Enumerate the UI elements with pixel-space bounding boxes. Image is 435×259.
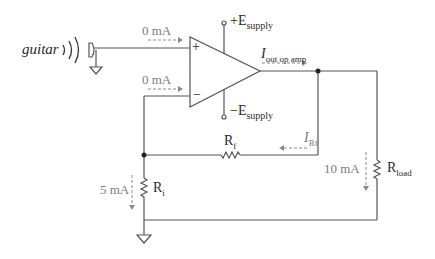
ri-current-label: 5 mA <box>100 183 129 196</box>
minus-sign: − <box>193 88 201 102</box>
negative-supply-label: −Esupply <box>230 104 273 118</box>
noninverting-current-label: 0 mA <box>142 24 171 37</box>
ground-icon <box>137 235 151 243</box>
jack-ground-icon <box>90 67 102 74</box>
sound-wave-icon <box>63 37 79 63</box>
output-junction-dot <box>316 69 321 74</box>
circuit-schematic <box>0 0 435 259</box>
output-current-label: Iout op amp <box>261 47 306 61</box>
inverting-current-label: 0 mA <box>142 73 171 86</box>
plus-sign: + <box>192 40 200 54</box>
op-amp-circuit-diagram: guitar + − +Esupply −Esupply 0 mA 0 mA I… <box>0 0 435 259</box>
positive-supply-label: +Esupply <box>230 14 273 28</box>
ri-resistor-icon <box>141 178 147 197</box>
feedback-current-label: IRf <box>304 131 318 145</box>
inverting-junction-dot <box>142 153 147 158</box>
input-jack-icon <box>89 43 94 57</box>
rf-label: Rf <box>224 134 236 148</box>
guitar-label: guitar <box>22 42 59 57</box>
rload-label: Rload <box>387 161 412 175</box>
rload-resistor-icon <box>374 160 380 179</box>
ri-label: Ri <box>153 181 165 195</box>
load-current-label: 10 mA <box>324 162 360 175</box>
rf-resistor-icon <box>221 152 240 158</box>
